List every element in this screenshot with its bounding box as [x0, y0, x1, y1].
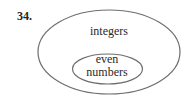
inner-set-label-line1: even [77, 53, 137, 65]
venn-diagram [0, 0, 189, 100]
outer-set-label: integers [79, 25, 139, 37]
inner-set-label-line2: numbers [77, 66, 137, 78]
